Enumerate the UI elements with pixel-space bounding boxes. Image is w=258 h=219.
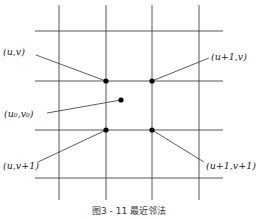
point-labels: (u,v)(u+1,v)(u₀,v₀)(u,v+1)(u+1,v+1) (3, 46, 256, 171)
leader-lines (36, 55, 209, 162)
leader-line (47, 100, 121, 113)
point-dot (149, 127, 154, 132)
leader-line (36, 55, 106, 81)
point-label: (u+1,v+1) (206, 160, 256, 171)
point-label: (u,v+1) (3, 160, 39, 171)
point-label: (u+1,v) (211, 51, 247, 62)
point-label: (u,v) (3, 46, 25, 57)
point-dot (103, 78, 108, 83)
leader-line (38, 130, 106, 162)
grid-lines (35, 5, 223, 200)
point-label: (u₀,v₀) (4, 108, 34, 119)
point-dot (149, 78, 154, 83)
grid-points (103, 78, 154, 132)
leader-line (152, 130, 204, 162)
figure-caption: 图3 - 11 最近邻法 (92, 205, 166, 216)
point-dot (103, 127, 108, 132)
interpolation-grid-diagram: (u,v)(u+1,v)(u₀,v₀)(u,v+1)(u+1,v+1) 图3 -… (0, 0, 258, 219)
leader-line (152, 58, 209, 81)
point-dot (118, 97, 123, 102)
